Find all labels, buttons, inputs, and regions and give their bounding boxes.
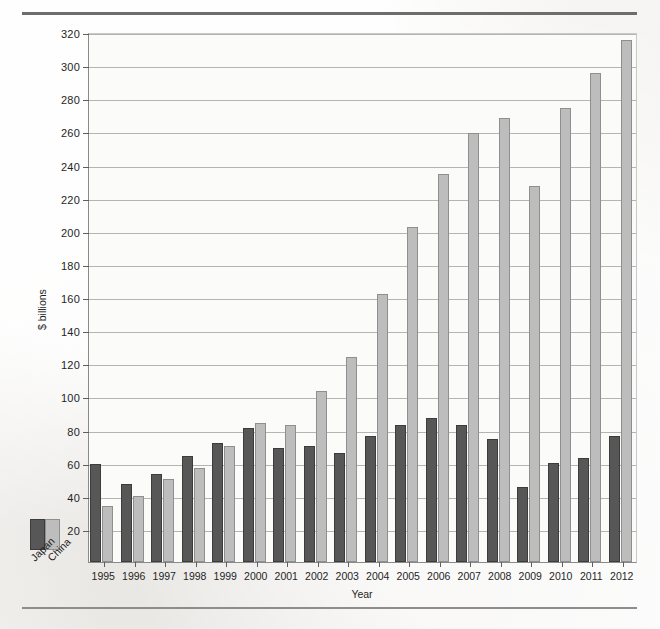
- bar-group: [272, 34, 303, 562]
- bar-china: [316, 391, 327, 562]
- bar-group: [547, 34, 578, 562]
- x-tick-label: 2009: [519, 570, 542, 582]
- x-tick-mark: [318, 562, 319, 567]
- x-tick-mark: [592, 562, 593, 567]
- x-tick-mark: [409, 562, 410, 567]
- bar-japan: [548, 463, 559, 562]
- x-tick-mark: [104, 562, 105, 567]
- bar-group: [516, 34, 547, 562]
- x-tick-mark: [562, 562, 563, 567]
- bar-group: [364, 34, 395, 562]
- bar-japan: [365, 436, 376, 562]
- x-axis-title: Year: [351, 588, 372, 600]
- x-tick-label: 1996: [122, 570, 145, 582]
- bar-chart-figure: $ billions 20406080100120140160180200220…: [0, 0, 660, 629]
- y-tick-label: 120: [61, 359, 80, 371]
- x-tick-label: 2012: [610, 570, 633, 582]
- y-tick-label: 280: [61, 94, 80, 106]
- bar-china: [590, 73, 601, 562]
- bar-china: [285, 425, 296, 562]
- x-tick-label: 2005: [397, 570, 420, 582]
- bar-china: [163, 479, 174, 562]
- bar-china: [224, 446, 235, 562]
- x-tick-mark: [287, 562, 288, 567]
- y-tick-label: 200: [61, 227, 80, 239]
- y-tick-label: 80: [67, 426, 80, 438]
- bar-china: [133, 496, 144, 562]
- y-tick-label: 320: [61, 28, 80, 40]
- bar-japan: [151, 474, 162, 562]
- bar-japan: [395, 425, 406, 562]
- y-axis-title: $ billions: [36, 289, 48, 330]
- bar-china: [346, 357, 357, 562]
- x-tick-label: 2004: [366, 570, 389, 582]
- bar-japan: [304, 446, 315, 562]
- bar-china: [499, 118, 510, 562]
- x-tick-label: 1998: [183, 570, 206, 582]
- x-tick-label: 2001: [275, 570, 298, 582]
- x-tick-mark: [440, 562, 441, 567]
- x-tick-label: 2002: [305, 570, 328, 582]
- y-tick-label: 60: [67, 459, 80, 471]
- x-tick-mark: [623, 562, 624, 567]
- x-tick-label: 2007: [458, 570, 481, 582]
- bar-china: [194, 468, 205, 562]
- bar-group: [394, 34, 425, 562]
- x-tick-label: 2003: [336, 570, 359, 582]
- bar-japan: [456, 425, 467, 562]
- figure-caption: [24, 618, 324, 629]
- y-tick-label: 260: [61, 127, 80, 139]
- x-tick-mark: [165, 562, 166, 567]
- x-tick-mark: [348, 562, 349, 567]
- y-tick-label: 220: [61, 194, 80, 206]
- x-tick-label: 2011: [580, 570, 603, 582]
- x-tick-mark: [531, 562, 532, 567]
- bar-china: [407, 227, 418, 562]
- x-tick-label: 1999: [214, 570, 237, 582]
- x-tick-label: 2010: [549, 570, 572, 582]
- x-tick-mark: [135, 562, 136, 567]
- bar-japan: [90, 464, 101, 562]
- bar-japan: [609, 436, 620, 562]
- bar-china: [468, 133, 479, 562]
- y-tick-label: 100: [61, 392, 80, 404]
- bar-group: [577, 34, 608, 562]
- bar-group: [608, 34, 639, 562]
- bar-group: [425, 34, 456, 562]
- bar-japan: [334, 453, 345, 562]
- bar-china: [102, 506, 113, 562]
- bar-japan: [487, 439, 498, 562]
- bar-japan: [212, 443, 223, 562]
- bar-group: [333, 34, 364, 562]
- bar-group: [486, 34, 517, 562]
- y-tick-label: 40: [67, 492, 80, 504]
- x-tick-label: 2008: [488, 570, 511, 582]
- bar-china: [529, 186, 540, 562]
- bar-japan: [578, 458, 589, 562]
- x-tick-mark: [257, 562, 258, 567]
- bar-china: [438, 174, 449, 562]
- x-tick-mark: [226, 562, 227, 567]
- legend: Japan China: [26, 519, 86, 599]
- bar-group: [242, 34, 273, 562]
- x-tick-mark: [470, 562, 471, 567]
- bar-japan: [182, 456, 193, 562]
- bar-japan: [121, 484, 132, 562]
- x-tick-mark: [196, 562, 197, 567]
- bar-japan: [426, 418, 437, 562]
- bar-group: [150, 34, 181, 562]
- bar-china: [255, 423, 266, 562]
- bar-china: [377, 294, 388, 562]
- y-tick-label: 180: [61, 260, 80, 272]
- x-tick-mark: [379, 562, 380, 567]
- bar-group: [455, 34, 486, 562]
- bar-group: [120, 34, 151, 562]
- bar-group: [211, 34, 242, 562]
- bar-china: [560, 108, 571, 562]
- x-tick-label: 2000: [244, 570, 267, 582]
- bar-group: [89, 34, 120, 562]
- y-tick-label: 160: [61, 293, 80, 305]
- bar-china: [621, 40, 632, 562]
- bar-japan: [243, 428, 254, 562]
- bar-group: [303, 34, 334, 562]
